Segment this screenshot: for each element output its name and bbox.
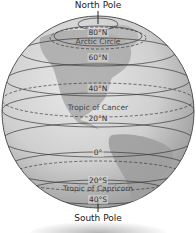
latitude-label-equator: 0° — [93, 148, 104, 157]
latitude-label-20n: 20°N — [88, 114, 109, 123]
latitude-label-tropic-of-cancer: Tropic of Cancer — [67, 103, 129, 112]
latitude-label-40s: 40°S — [88, 195, 108, 204]
globe-diagram: North Pole — [0, 0, 196, 233]
latitude-label-tropic-of-capricorn: Tropic of Capricorn — [62, 184, 134, 193]
latitude-label-80n: 80°N — [88, 28, 109, 37]
latitude-label-40n: 40°N — [88, 84, 109, 93]
latitude-label-60n: 60°N — [88, 53, 109, 62]
latitude-label-arctic-circle: Arctic Circle — [75, 37, 122, 46]
